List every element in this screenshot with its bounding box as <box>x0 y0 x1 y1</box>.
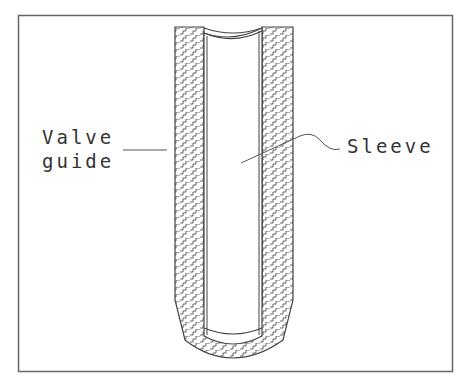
valve-guide-diagram <box>0 0 466 379</box>
valve-guide-label-line2: guide <box>42 150 114 172</box>
sleeve <box>204 28 262 344</box>
sleeve-label: Sleeve <box>347 135 434 157</box>
valve-guide-label-line1: Valve <box>42 126 114 148</box>
